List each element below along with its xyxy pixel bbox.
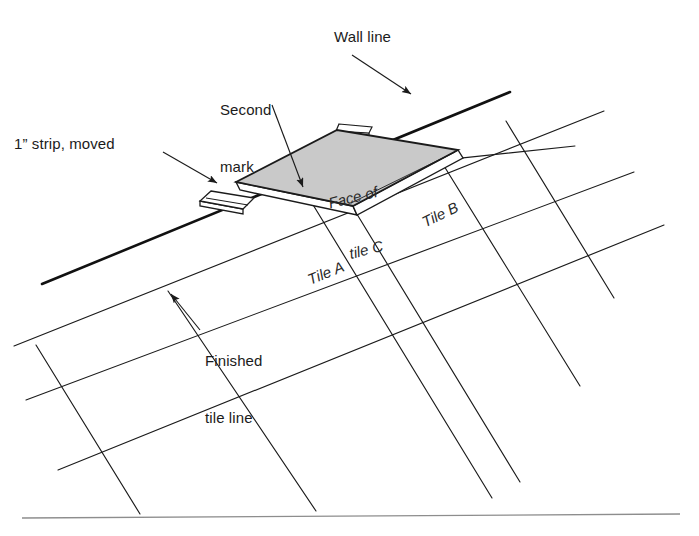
wall-line-label: Wall line <box>334 28 391 46</box>
tile-line-b1 <box>36 345 140 514</box>
finished-tile-line-leader <box>171 294 200 330</box>
finished-tile-line-label-line2: tile line <box>205 408 263 427</box>
wall-line-leader <box>352 55 411 94</box>
tile-c-label-line1: Face of <box>327 183 380 213</box>
tile-c-label-line2: tile C <box>340 235 393 265</box>
second-mark-label-line2: mark <box>220 157 271 176</box>
second-mark-label: Second mark <box>220 62 271 214</box>
second-mark-label-line1: Second <box>220 100 271 119</box>
finished-tile-line-label: Finished tile line <box>205 313 263 465</box>
finished-tile-line-label-line1: Finished <box>205 351 263 370</box>
tile-layout-figure: Wall line Second mark 1” strip, moved Fi… <box>0 0 699 536</box>
strip-moved-leader <box>163 152 217 183</box>
strip-moved-label: 1” strip, moved <box>14 135 115 153</box>
tile-line-b4 <box>436 153 580 386</box>
bottom-rule <box>22 514 680 518</box>
